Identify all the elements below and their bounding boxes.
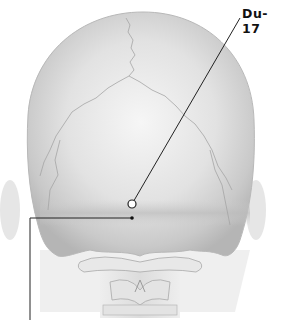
du-17-label: Du-17 [242,6,286,36]
left-ear [0,180,20,240]
unlabeled-point-marker [130,216,134,220]
du-17-marker [128,200,136,208]
occipital-band [40,200,250,226]
skull-illustration [0,0,286,326]
skull-diagram: Du-17 [0,0,286,326]
